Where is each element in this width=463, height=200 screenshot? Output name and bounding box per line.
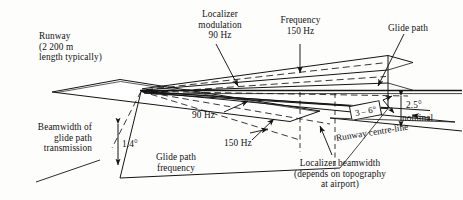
- label-runway: Runway (2 200 m length typically): [39, 31, 102, 63]
- label-localizer-modulation: Localizer modulation 90 Hz: [190, 9, 250, 41]
- label-frequency-150: Frequency 150 Hz: [272, 15, 329, 36]
- label-angle-2-5: 2.5°: [406, 100, 422, 111]
- label-hz-150: 150 Hz: [224, 138, 252, 149]
- label-beamwidth-glide-path: Beamwidth of glide path transmission: [8, 122, 92, 154]
- ils-diagram: Runway (2 200 m length typically) Locali…: [0, 0, 463, 200]
- label-glide-path: Glide path: [388, 23, 428, 34]
- label-localizer-beamwidth: Localizer beamwidth (depends on topograp…: [268, 158, 412, 190]
- localizer-upper-dashed: [146, 63, 386, 93]
- label-angle-1-4: 1.4°: [122, 139, 138, 150]
- label-glide-path-frequency: Glide path frequency: [142, 152, 210, 173]
- label-hz-90: 90 Hz: [192, 110, 215, 121]
- fan-arrow-mid: [250, 129, 268, 133]
